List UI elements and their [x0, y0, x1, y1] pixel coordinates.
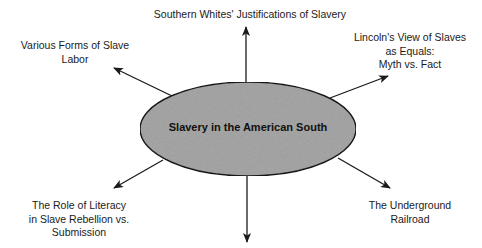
node-upper-right-line-2: as Equals:	[345, 45, 475, 59]
node-top-label: Southern Whites' Justifications of Slave…	[145, 8, 355, 22]
arrow-upper-right	[330, 76, 388, 98]
node-lower-right-line-1: The Underground	[355, 199, 465, 213]
node-lower-left-label: The Role of Literacy in Slave Rebellion …	[14, 199, 144, 240]
node-lower-left-line-1: The Role of Literacy	[14, 199, 144, 213]
node-upper-left-line-1: Various Forms of Slave	[10, 39, 140, 53]
node-upper-left-label: Various Forms of Slave Labor	[10, 39, 140, 66]
node-upper-right-line-1: Lincoln's View of Slaves	[345, 31, 475, 45]
arrow-lower-right	[338, 158, 390, 188]
node-top-line-1: Southern Whites' Justifications of Slave…	[145, 8, 355, 22]
node-lower-right-line-2: Railroad	[355, 213, 465, 227]
arrow-upper-left	[114, 68, 172, 96]
node-upper-right-line-3: Myth vs. Fact	[345, 58, 475, 72]
center-topic-label: Slavery in the American South	[148, 121, 348, 133]
node-lower-left-line-3: Submission	[14, 226, 144, 240]
node-upper-right-label: Lincoln's View of Slaves as Equals: Myth…	[345, 31, 475, 72]
node-upper-left-line-2: Labor	[10, 53, 140, 67]
arrow-lower-left	[114, 160, 163, 188]
node-lower-right-label: The Underground Railroad	[355, 199, 465, 226]
node-lower-left-line-2: in Slave Rebellion vs.	[14, 213, 144, 227]
